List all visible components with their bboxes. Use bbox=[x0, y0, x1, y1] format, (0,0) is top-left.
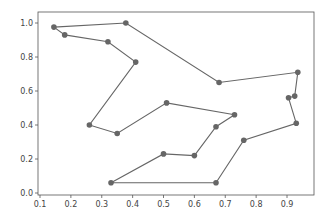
data-point bbox=[62, 32, 68, 38]
data-point bbox=[232, 112, 238, 118]
data-point bbox=[108, 180, 114, 186]
y-tick-label: 0.4 bbox=[20, 121, 33, 130]
plot-area bbox=[38, 12, 314, 195]
data-point bbox=[292, 93, 298, 99]
x-tick-label: 0.4 bbox=[126, 200, 139, 209]
x-tick-label: 0.2 bbox=[65, 200, 78, 209]
data-point bbox=[192, 153, 198, 159]
data-point bbox=[293, 121, 299, 127]
y-tick-label: 0.0 bbox=[20, 189, 33, 198]
y-tick-label: 1.0 bbox=[20, 19, 33, 28]
data-point bbox=[216, 80, 222, 86]
x-tick-label: 0.9 bbox=[281, 200, 294, 209]
data-point bbox=[164, 100, 170, 106]
y-tick-label: 0.2 bbox=[20, 155, 33, 164]
data-point bbox=[295, 70, 301, 76]
data-point bbox=[133, 59, 139, 65]
data-point bbox=[161, 151, 167, 157]
x-tick-label: 0.8 bbox=[250, 200, 263, 209]
y-tick-label: 0.6 bbox=[20, 87, 33, 96]
data-point bbox=[123, 20, 129, 26]
x-tick-label: 0.5 bbox=[157, 200, 170, 209]
data-point bbox=[87, 122, 93, 128]
x-tick-label: 0.6 bbox=[188, 200, 201, 209]
x-axis-ticks: 0.10.20.30.40.50.60.70.80.9 bbox=[34, 195, 294, 209]
data-point bbox=[105, 39, 111, 45]
data-point bbox=[286, 95, 292, 101]
data-point bbox=[213, 124, 219, 130]
y-tick-label: 0.8 bbox=[20, 53, 33, 62]
x-tick-label: 0.3 bbox=[95, 200, 108, 209]
data-point bbox=[241, 138, 247, 144]
x-tick-label: 0.1 bbox=[34, 200, 47, 209]
y-axis-ticks: 0.00.20.40.60.81.0 bbox=[20, 19, 38, 198]
data-point bbox=[114, 131, 120, 137]
x-tick-label: 0.7 bbox=[219, 200, 232, 209]
data-point bbox=[213, 180, 219, 186]
chart: 0.10.20.30.40.50.60.70.80.9 0.00.20.40.6… bbox=[0, 0, 329, 219]
data-point bbox=[51, 24, 57, 30]
